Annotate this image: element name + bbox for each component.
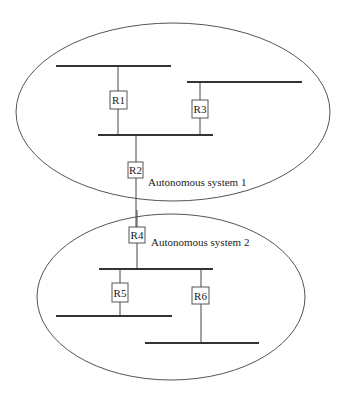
- router-label: R5: [114, 287, 127, 299]
- routers: R1R3R2R4R5R6: [110, 91, 209, 304]
- autonomous-system-1-boundary: [16, 23, 330, 201]
- router-r5: R5: [112, 283, 128, 302]
- router-label: R6: [194, 290, 207, 302]
- router-label: R2: [129, 164, 142, 176]
- autonomous-system-2-label: Autonomous system 2: [151, 236, 249, 248]
- router-links: [118, 66, 201, 343]
- router-label: R3: [194, 103, 207, 115]
- as-labels: Autonomous system 1Autonomous system 2: [148, 176, 249, 248]
- router-r4: R4: [129, 227, 145, 243]
- router-r3: R3: [192, 100, 208, 118]
- router-r6: R6: [192, 287, 209, 304]
- network-diagram: R1R3R2R4R5R6 Autonomous system 1Autonomo…: [0, 0, 346, 398]
- router-label: R1: [112, 94, 125, 106]
- autonomous-system-1-label: Autonomous system 1: [148, 176, 246, 188]
- router-label: R4: [131, 229, 144, 241]
- network-segments: [56, 66, 302, 343]
- router-r2: R2: [128, 162, 143, 178]
- autonomous-system-boundaries: [16, 23, 330, 380]
- router-r1: R1: [110, 91, 127, 109]
